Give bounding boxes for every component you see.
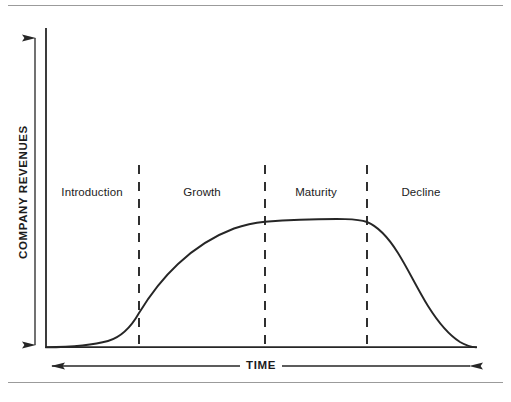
chart-canvas [0,0,511,402]
x-axis-label: TIME [241,359,281,371]
product-life-cycle-figure: COMPANY REVENUES Introduction Growth Mat… [0,0,511,402]
stage-label-maturity: Maturity [295,186,337,198]
life-cycle-curve [46,219,476,347]
stage-label-growth: Growth [183,186,221,198]
y-axis-label: COMPANY REVENUES [13,125,33,259]
stage-label-decline: Decline [401,186,440,198]
stage-label-introduction: Introduction [61,186,122,198]
